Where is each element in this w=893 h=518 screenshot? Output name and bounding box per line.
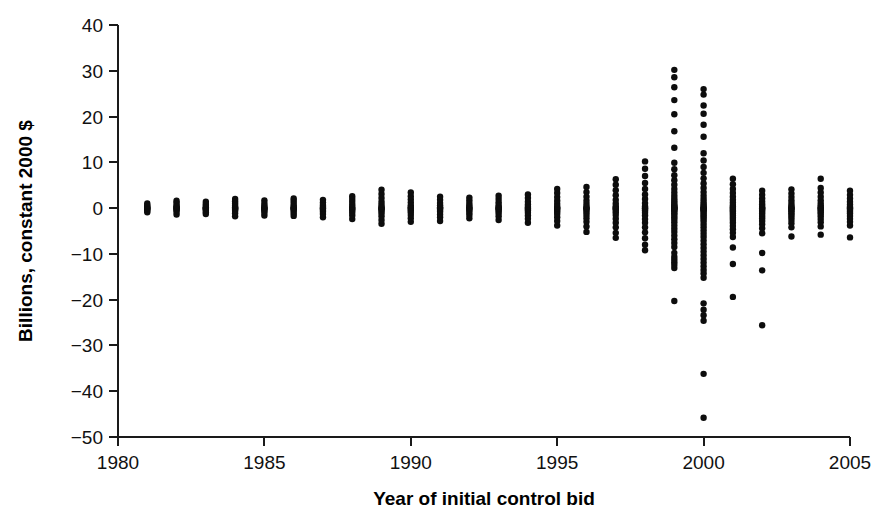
data-point — [671, 84, 677, 90]
y-tick-label: −20 — [71, 290, 103, 311]
plot-canvas: 403020100−10−20−30−40−50 198019851990199… — [0, 0, 893, 518]
y-tick-label: 0 — [92, 198, 103, 219]
data-point — [700, 371, 706, 377]
data-point — [583, 229, 589, 235]
data-point — [378, 187, 384, 193]
data-point — [642, 242, 648, 248]
data-point — [671, 111, 677, 117]
data-point — [320, 197, 326, 203]
data-point — [700, 175, 706, 181]
x-tick-label: 1980 — [97, 452, 139, 473]
data-point — [671, 97, 677, 103]
data-point — [700, 157, 706, 163]
data-point — [613, 182, 619, 188]
data-point — [730, 244, 736, 250]
data-point — [671, 67, 677, 73]
x-tick-label: 2005 — [829, 452, 871, 473]
data-point — [642, 235, 648, 241]
data-point — [788, 186, 794, 192]
data-point — [437, 193, 443, 199]
data-point — [671, 74, 677, 80]
data-point — [818, 176, 824, 182]
scatter-plot-figure: 403020100−10−20−30−40−50 198019851990199… — [0, 0, 893, 518]
data-point — [613, 176, 619, 182]
data-point — [613, 230, 619, 236]
x-tick-label: 1995 — [536, 452, 578, 473]
data-point — [642, 186, 648, 192]
data-point — [700, 300, 706, 306]
data-point — [700, 170, 706, 176]
data-point — [671, 166, 677, 172]
y-tick-label: −40 — [71, 381, 103, 402]
data-point — [700, 164, 706, 170]
data-point — [349, 193, 355, 199]
data-point — [700, 318, 706, 324]
data-point — [759, 267, 765, 273]
x-axis-ticks: 198019851990199520002005 — [97, 437, 871, 473]
y-axis-ticks: 403020100−10−20−30−40−50 — [71, 15, 118, 448]
data-point — [232, 196, 238, 202]
data-point — [700, 307, 706, 313]
y-tick-label: 10 — [82, 152, 103, 173]
y-axis-title: Billions, constant 2000 $ — [15, 120, 36, 342]
data-point — [144, 200, 150, 206]
data-point — [818, 185, 824, 191]
data-point — [642, 158, 648, 164]
data-point — [525, 191, 531, 197]
data-point — [847, 188, 853, 194]
x-axis-title: Year of initial control bid — [373, 488, 595, 509]
y-tick-label: −10 — [71, 244, 103, 265]
y-tick-label: −50 — [71, 427, 103, 448]
data-point — [700, 415, 706, 421]
data-point — [700, 91, 706, 97]
data-point — [671, 128, 677, 134]
data-point — [203, 199, 209, 205]
data-point — [700, 86, 706, 92]
y-tick-label: 40 — [82, 15, 103, 36]
data-point — [613, 187, 619, 193]
data-point — [642, 191, 648, 197]
data-point — [700, 111, 706, 117]
data-points-group — [144, 67, 853, 421]
data-point — [466, 194, 472, 200]
data-point — [759, 188, 765, 194]
data-point — [642, 173, 648, 179]
data-point — [700, 122, 706, 128]
data-point — [642, 180, 648, 186]
data-point — [290, 195, 296, 201]
data-point — [642, 247, 648, 253]
data-point — [173, 198, 179, 204]
data-point — [671, 160, 677, 166]
data-point — [700, 312, 706, 318]
data-point — [788, 233, 794, 239]
data-point — [700, 102, 706, 108]
data-point — [671, 144, 677, 150]
data-point — [642, 166, 648, 172]
y-tick-label: 30 — [82, 61, 103, 82]
data-point — [671, 298, 677, 304]
data-point — [847, 234, 853, 240]
data-point — [730, 176, 736, 182]
y-tick-label: 20 — [82, 107, 103, 128]
data-point — [408, 189, 414, 195]
x-tick-label: 1990 — [390, 452, 432, 473]
data-point — [261, 197, 267, 203]
data-point — [700, 133, 706, 139]
data-point — [818, 231, 824, 237]
x-tick-label: 2000 — [682, 452, 724, 473]
data-point — [700, 150, 706, 156]
data-point — [671, 250, 677, 256]
data-point — [759, 322, 765, 328]
data-point — [495, 193, 501, 199]
data-point — [730, 261, 736, 267]
y-tick-label: −30 — [71, 335, 103, 356]
data-point — [554, 186, 560, 192]
data-point — [671, 172, 677, 178]
data-point — [730, 181, 736, 187]
data-point — [730, 294, 736, 300]
data-point — [583, 184, 589, 190]
x-tick-label: 1985 — [243, 452, 285, 473]
data-point — [759, 250, 765, 256]
